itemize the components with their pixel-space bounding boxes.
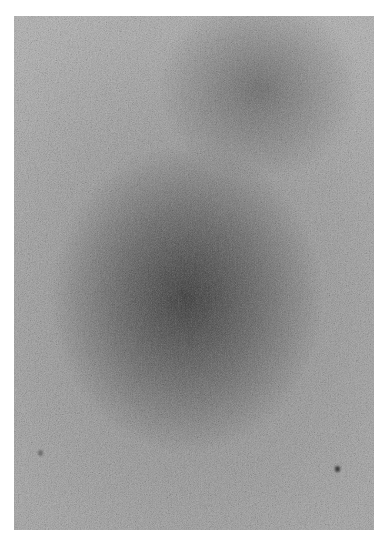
- dark-speck: [335, 466, 340, 472]
- dark-speck: [38, 450, 43, 456]
- image-canvas: [0, 0, 385, 542]
- grain-light-layer: [14, 16, 374, 530]
- noise-texture-frame: [14, 16, 374, 530]
